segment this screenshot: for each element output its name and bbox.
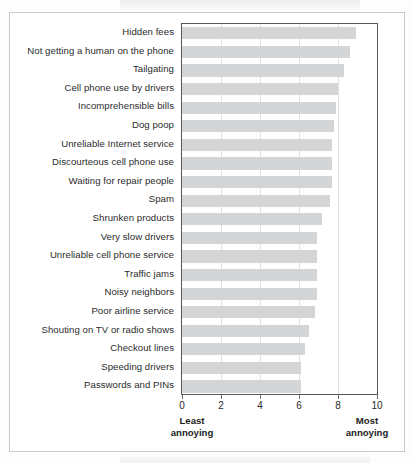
bar	[182, 269, 317, 281]
x-tick-2	[221, 395, 222, 399]
bar-row	[182, 98, 377, 117]
bar	[182, 102, 336, 114]
bar	[182, 213, 322, 225]
bar	[182, 343, 305, 355]
category-label: Unreliable cell phone service	[10, 246, 179, 265]
axis-endcap-least: Least annoying	[171, 415, 214, 438]
scan-artifact-bottom	[120, 454, 370, 463]
page-canvas: Hidden feesNot getting a human on the ph…	[0, 0, 414, 463]
bar-row	[182, 229, 377, 248]
bar-row	[182, 154, 377, 173]
category-label: Shouting on TV or radio shows	[10, 321, 179, 340]
bars-container	[182, 24, 377, 394]
bar	[182, 362, 301, 374]
bar-row	[182, 117, 377, 136]
category-label: Tailgating	[10, 60, 179, 79]
category-label: Not getting a human on the phone	[10, 42, 179, 61]
bar-row	[182, 210, 377, 229]
figure-frame: Hidden feesNot getting a human on the ph…	[9, 12, 405, 452]
bar	[182, 46, 350, 58]
bar-row	[182, 303, 377, 322]
bar	[182, 157, 332, 169]
category-label: Very slow drivers	[10, 228, 179, 247]
bar	[182, 232, 317, 244]
category-label: Hidden fees	[10, 23, 179, 42]
axis-endcap-most-line1: Most	[356, 415, 378, 426]
bar-row	[182, 43, 377, 62]
category-label: Speeding drivers	[10, 358, 179, 377]
category-label: Spam	[10, 190, 179, 209]
category-label: Unreliable Internet service	[10, 135, 179, 154]
bar	[182, 27, 356, 39]
bar-row	[182, 340, 377, 359]
category-label: Waiting for repair people	[10, 172, 179, 191]
x-tick-0	[182, 395, 183, 399]
scan-artifact-top	[120, 0, 360, 11]
bar	[182, 176, 332, 188]
axis-endcap-least-line1: Least	[179, 415, 204, 426]
category-label: Cell phone use by drivers	[10, 79, 179, 98]
bar	[182, 83, 338, 95]
category-label: Checkout lines	[10, 339, 179, 358]
plot-area	[181, 23, 378, 395]
bar	[182, 325, 309, 337]
x-tick-8	[338, 395, 339, 399]
bar	[182, 250, 317, 262]
category-label: Traffic jams	[10, 265, 179, 284]
x-tick-6	[299, 395, 300, 399]
category-label-column: Hidden feesNot getting a human on the ph…	[10, 23, 179, 395]
category-label: Passwords and PINs	[10, 376, 179, 395]
category-label: Noisy neighbors	[10, 283, 179, 302]
bar-row	[182, 136, 377, 155]
x-tick-label: 10	[371, 400, 382, 411]
bar-row	[182, 24, 377, 43]
category-label: Dog poop	[10, 116, 179, 135]
bar-row	[182, 377, 377, 396]
x-tick-label: 0	[179, 400, 185, 411]
category-label: Shrunken products	[10, 209, 179, 228]
axis-endcap-most-line2: annoying	[346, 427, 389, 439]
category-label: Poor airline service	[10, 302, 179, 321]
bar-chart: Hidden feesNot getting a human on the ph…	[10, 13, 406, 453]
bar	[182, 195, 330, 207]
bar-row	[182, 359, 377, 378]
bar-row	[182, 173, 377, 192]
axis-endcap-least-line2: annoying	[171, 427, 214, 439]
bar-row	[182, 191, 377, 210]
x-tick-4	[260, 395, 261, 399]
bar	[182, 64, 344, 76]
category-label: Discourteous cell phone use	[10, 153, 179, 172]
bar	[182, 288, 317, 300]
bar	[182, 380, 301, 392]
bar-row	[182, 284, 377, 303]
bar	[182, 120, 334, 132]
bar-row	[182, 247, 377, 266]
x-tick-label: 8	[335, 400, 341, 411]
axis-endcap-most: Most annoying	[346, 415, 389, 438]
bar-row	[182, 61, 377, 80]
x-axis: Least annoying Most annoying 0246810	[181, 395, 378, 445]
bar	[182, 139, 332, 151]
bar-row	[182, 266, 377, 285]
bar-row	[182, 80, 377, 99]
x-tick-label: 4	[257, 400, 263, 411]
bar-row	[182, 322, 377, 341]
bar	[182, 306, 315, 318]
x-tick-label: 6	[296, 400, 302, 411]
category-label: Incomprehensible bills	[10, 97, 179, 116]
x-tick-label: 2	[218, 400, 224, 411]
x-tick-10	[377, 395, 378, 399]
